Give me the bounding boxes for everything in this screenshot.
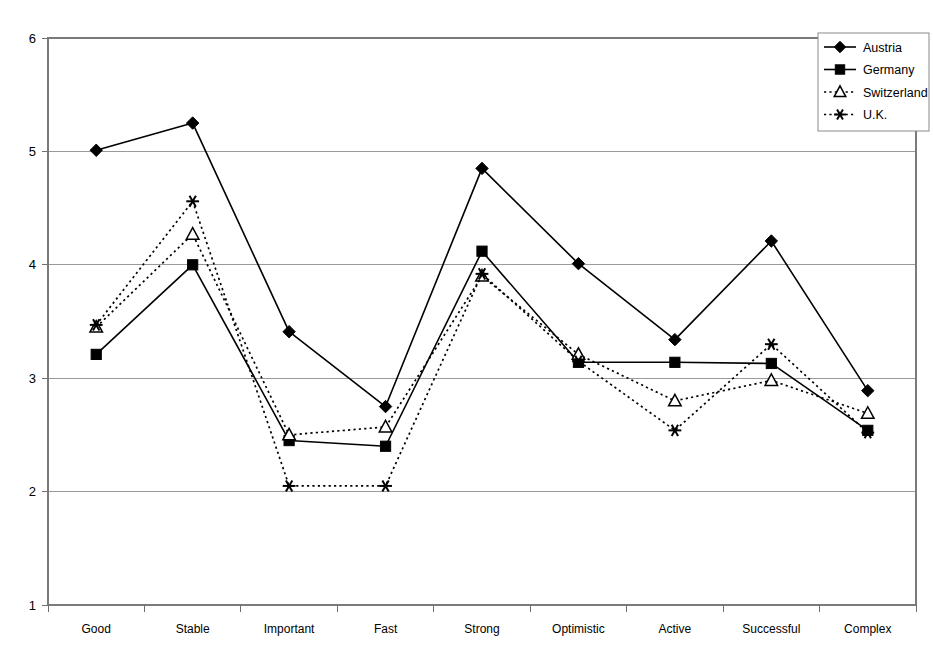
y-axis-tick-label: 3 [29, 371, 36, 386]
square-marker [380, 441, 390, 451]
star-marker [283, 480, 296, 491]
x-axis-ticks [48, 605, 916, 612]
chart-canvas: 123456 GoodStableImportantFastStrongOpti… [0, 0, 933, 653]
x-axis-category-label: Important [264, 622, 315, 636]
y-axis-tick-label: 5 [29, 144, 36, 159]
x-axis-category-label: Optimistic [552, 622, 605, 636]
series-line [96, 234, 868, 435]
x-axis-category-label: Strong [464, 622, 499, 636]
diamond-marker [862, 384, 874, 396]
square-marker [477, 246, 487, 256]
chart-legend: AustriaGermanySwitzerlandU.K. [818, 33, 929, 131]
legend-label: U.K. [863, 108, 887, 122]
triangle-marker [669, 394, 682, 406]
x-axis-category-label: Fast [374, 622, 398, 636]
y-axis-tick-labels: 123456 [29, 31, 36, 613]
x-axis-category-labels: GoodStableImportantFastStrongOptimisticA… [82, 622, 892, 636]
plot-area-border [48, 38, 916, 605]
x-axis-category-label: Stable [176, 622, 210, 636]
square-marker [766, 358, 776, 368]
y-axis-tick-label: 4 [29, 257, 36, 272]
series-line [96, 201, 868, 486]
square-marker [835, 65, 844, 74]
diamond-marker [186, 117, 198, 129]
triangle-marker [765, 374, 778, 386]
series-switzerland [90, 228, 874, 440]
line-chart: 123456 GoodStableImportantFastStrongOpti… [0, 0, 933, 653]
x-axis-category-label: Complex [844, 622, 891, 636]
triangle-marker [186, 228, 199, 240]
square-marker [188, 260, 198, 270]
y-axis-tick-label: 2 [29, 484, 36, 499]
y-axis-ticks [42, 38, 48, 605]
gridlines [48, 38, 916, 605]
data-series-group [90, 117, 874, 492]
star-marker [668, 425, 681, 436]
series-u-k [90, 196, 874, 492]
star-marker [186, 196, 199, 207]
x-axis-category-label: Good [82, 622, 111, 636]
x-axis-category-label: Successful [742, 622, 800, 636]
square-marker [670, 357, 680, 367]
y-axis-tick-label: 1 [29, 598, 36, 613]
diamond-marker [90, 144, 102, 156]
legend-label: Germany [863, 63, 915, 77]
star-marker [379, 480, 392, 491]
y-axis-tick-label: 6 [29, 31, 36, 46]
triangle-marker [572, 348, 585, 360]
legend-label: Austria [863, 41, 902, 55]
square-marker [91, 349, 101, 359]
triangle-marker [379, 420, 392, 432]
x-axis-category-label: Active [659, 622, 692, 636]
legend-label: Switzerland [863, 86, 928, 100]
star-marker [765, 339, 778, 350]
